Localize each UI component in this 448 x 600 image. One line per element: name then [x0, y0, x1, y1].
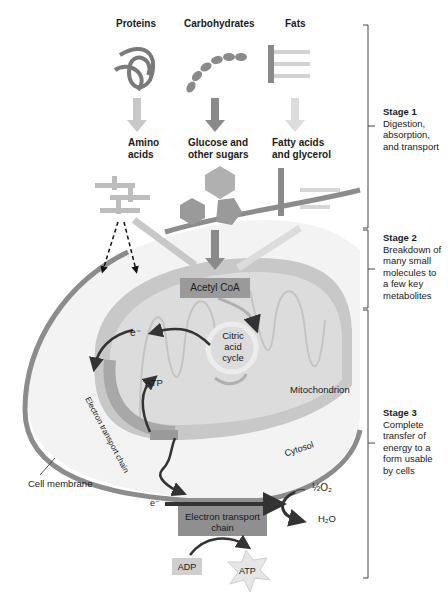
- label-fatty-line2: and glycerol: [272, 149, 331, 160]
- label-glucose: Glucose and other sugars: [188, 137, 249, 161]
- stage-2-title: Stage 2: [383, 232, 441, 244]
- stage-3-desc: Complete transfer of energy to a form us…: [383, 419, 433, 477]
- stage-1-desc: Digestion, absorption, and transport: [383, 118, 439, 153]
- protein-molecule: [115, 49, 153, 90]
- stage-1: Stage 1 Digestion, absorption, and trans…: [383, 106, 439, 152]
- citric-line2: acid: [224, 341, 241, 352]
- label-glucose-line2: other sugars: [188, 149, 249, 160]
- label-fats: Fats: [285, 18, 306, 30]
- citric-line3: cycle: [222, 352, 244, 363]
- label-amino-line1: Amino: [128, 137, 159, 148]
- stage-2-desc: Breakdown of many small molecules to a f…: [383, 244, 441, 302]
- adp-box: ADP: [172, 558, 202, 575]
- citric-line1: Citric: [222, 330, 244, 341]
- label-fatty-acids: Fatty acids and glycerol: [272, 137, 331, 161]
- amino-acid-molecules: [95, 176, 150, 214]
- stage-1-title: Stage 1: [383, 106, 439, 118]
- bottom-etc-graphics: [165, 490, 305, 592]
- label-fatty-line1: Fatty acids: [272, 137, 324, 148]
- label-water: H₂O: [318, 513, 336, 525]
- stage-brackets: [363, 25, 375, 578]
- etc-line1: Electron transport: [185, 511, 260, 522]
- label-atp-bottom: ATP: [239, 565, 256, 577]
- etc-box: Electron transport chain: [178, 508, 267, 536]
- acetyl-coa-box: Acetyl CoA: [180, 278, 250, 298]
- label-cell-membrane: Cell membrane: [28, 478, 92, 490]
- fatty-acid-molecules: [278, 168, 340, 216]
- stage-2: Stage 2 Breakdown of many small molecule…: [383, 232, 441, 301]
- label-glucose-line1: Glucose and: [188, 137, 248, 148]
- carbohydrate-molecule: [185, 53, 247, 94]
- etc-line2: chain: [211, 522, 234, 533]
- label-oxygen: ½O₂: [312, 482, 332, 494]
- label-electron-bottom: e⁻: [150, 497, 160, 509]
- label-carbohydrates: Carbohydrates: [184, 18, 255, 30]
- label-electron-mito: e⁻: [130, 327, 141, 339]
- label-atp-mito: ATP: [145, 377, 163, 389]
- label-amino-line2: acids: [128, 149, 154, 160]
- stage-3-title: Stage 3: [383, 407, 433, 419]
- label-citric-acid-cycle: Citric acid cycle: [220, 330, 246, 363]
- label-proteins: Proteins: [116, 18, 156, 30]
- label-mitochondrion: Mitochondrion: [290, 384, 350, 396]
- label-amino-acids: Amino acids: [128, 137, 159, 161]
- digestion-arrows: [127, 98, 305, 132]
- stage-3: Stage 3 Complete transfer of energy to a…: [383, 407, 433, 476]
- fat-molecule: [268, 45, 310, 83]
- sugar-molecules: [180, 166, 242, 225]
